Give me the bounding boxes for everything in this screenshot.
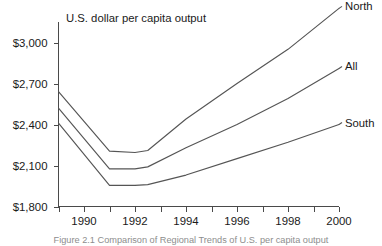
series-line-all bbox=[59, 68, 340, 168]
chart-title: U.S. dollar per capita output bbox=[66, 12, 207, 24]
x-axis-ticks bbox=[60, 207, 340, 212]
y-axis-ticks bbox=[54, 44, 59, 208]
series-leader-north bbox=[339, 6, 342, 8]
y-tick-label: $2,700 bbox=[13, 78, 48, 90]
y-tick-label: $2,100 bbox=[13, 160, 48, 172]
x-tick-label: 1990 bbox=[71, 215, 96, 227]
series-leader-all bbox=[339, 66, 342, 68]
series-label-south: South bbox=[345, 117, 375, 129]
figure-container: NorthAllSouth $1,800$2,100$2,400$2,700$3… bbox=[0, 0, 382, 246]
x-tick-label: 2000 bbox=[326, 215, 351, 227]
x-tick-label: 1998 bbox=[275, 215, 300, 227]
series-lines bbox=[59, 8, 340, 185]
y-axis-tick-labels: $1,800$2,100$2,400$2,700$3,000 bbox=[13, 37, 48, 213]
series-leader-south bbox=[339, 123, 342, 125]
series-label-all: All bbox=[345, 60, 358, 72]
y-tick-label: $1,800 bbox=[13, 201, 48, 213]
series-end-labels: NorthAllSouth bbox=[339, 0, 375, 128]
x-axis-tick-labels: 199019921994199619982000 bbox=[71, 215, 351, 227]
y-tick-label: $3,000 bbox=[13, 37, 48, 49]
y-tick-label: $2,400 bbox=[13, 119, 48, 131]
series-label-north: North bbox=[345, 0, 373, 12]
series-line-south bbox=[59, 123, 340, 185]
series-line-north bbox=[59, 8, 340, 152]
x-tick-label: 1992 bbox=[122, 215, 147, 227]
x-tick-label: 1994 bbox=[173, 215, 198, 227]
line-chart: NorthAllSouth $1,800$2,100$2,400$2,700$3… bbox=[0, 0, 382, 246]
figure-caption: Figure 2.1 Comparison of Regional Trends… bbox=[54, 235, 329, 245]
x-tick-label: 1996 bbox=[224, 215, 249, 227]
